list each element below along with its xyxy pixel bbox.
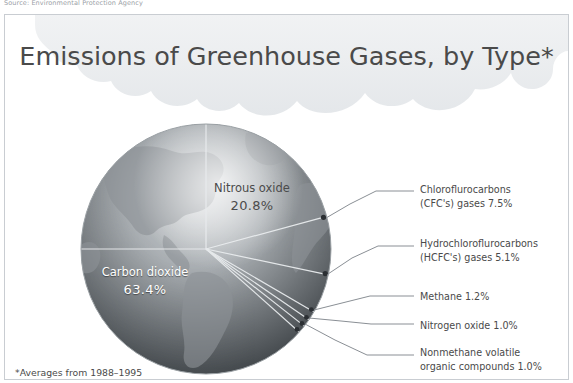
callout-nmvoc-line2: organic compounds 1.0% [420,360,542,374]
chart-frame: Emissions of Greenhouse Gases, by Type* [4,14,569,380]
callout-methane-line1: Methane 1.2% [420,290,489,304]
callout-hydrochlorofluorocarbons: Hydrochloroflurocarbons (HCFC's) gases 5… [420,237,538,265]
callout-hcfc-line2: (HCFC's) gases 5.1% [420,251,538,265]
chart-footnote: *Averages from 1988–1995 [15,367,142,378]
callout-hcfc-line1: Hydrochloroflurocarbons [420,237,538,251]
callout-cfc-line2: (CFC's) gases 7.5% [420,197,512,211]
callout-chlorofluorocarbons: Chloroflurocarbons (CFC's) gases 7.5% [420,183,512,211]
source-credit: Source: Environmental Protection Agency [4,0,143,7]
callout-cfc-line1: Chloroflurocarbons [420,183,512,197]
callout-nmvoc-line1: Nonmethane volatile [420,346,542,360]
callout-nitrogen-line1: Nitrogen oxide 1.0% [420,319,518,333]
callout-nonmethane-voc: Nonmethane volatile organic compounds 1.… [420,346,542,374]
callout-nitrogen-oxide: Nitrogen oxide 1.0% [420,319,518,333]
callout-methane: Methane 1.2% [420,290,489,304]
